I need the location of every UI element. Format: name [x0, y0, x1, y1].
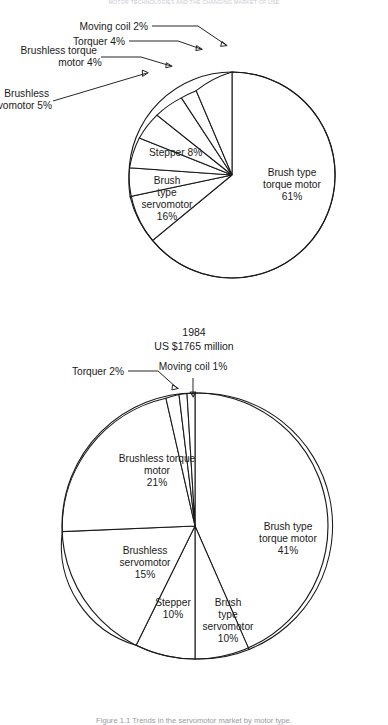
label-torquer: Torquer 2%	[72, 366, 124, 377]
pie-svg-1990: Moving coil 1% Torquer 2% Brushless torq…	[0, 358, 388, 718]
leader-torquer	[129, 41, 202, 51]
label-bls-line2: servomotor	[120, 557, 172, 568]
caption-1984-total: US $1765 million	[0, 340, 388, 354]
running-head: MOTOR TECHNOLOGIES AND THE CHANGING MARK…	[0, 0, 388, 6]
label-bltm-line2: motor	[144, 465, 171, 476]
label-bts-line3: servomotor	[142, 199, 194, 210]
label-brushless-servomotor: Brushless ervomotor 5%	[0, 88, 52, 111]
label-bts-line2: type	[218, 609, 238, 620]
leader-torquer	[128, 371, 178, 390]
label-bts-line3: servomotor	[203, 621, 255, 632]
leader-brushless-torque-motor	[101, 57, 172, 68]
label-brushless-servomotor-line1: Brushless	[4, 88, 49, 99]
label-brushless-torque-motor-line2: motor 4%	[58, 57, 102, 68]
label-brushless-torque-motor: Brushless torque motor 4%	[21, 45, 102, 68]
label-brushless-servomotor-line2: ervomotor 5%	[0, 100, 52, 111]
figure-page: MOTOR TECHNOLOGIES AND THE CHANGING MARK…	[0, 0, 388, 725]
figure-caption: Figure 1.1 Trends in the servomotor mark…	[0, 716, 388, 725]
label-stepper-line1: Stepper	[155, 597, 191, 608]
label-moving-coil-text: Moving coil 1%	[159, 361, 228, 372]
caption-1984: 1984 US $1765 million	[0, 326, 388, 353]
label-bttm-line1: Brush type	[268, 167, 317, 178]
label-bts-line1: Brush	[154, 175, 181, 186]
label-bls-line1: Brushless	[123, 545, 168, 556]
pie-svg-1984: Moving coil 2% Torquer 4% Brushless torq…	[0, 8, 388, 360]
leader-moving-coil	[152, 26, 227, 46]
label-bttm-line2: torque motor	[259, 533, 317, 544]
label-bttm-line2: torque motor	[263, 179, 321, 190]
label-stepper-text: Stepper 8%	[149, 147, 202, 158]
pie-chart-1990: Moving coil 1% Torquer 2% Brushless torq…	[0, 358, 388, 718]
label-bltm-line1: Brushless torque	[119, 453, 196, 464]
pie-chart-1984: Moving coil 2% Torquer 4% Brushless torq…	[0, 8, 388, 360]
label-stepper: Stepper 8%	[149, 147, 202, 158]
leader-moving-coil	[190, 378, 196, 397]
label-bltm-line3: 21%	[147, 477, 167, 488]
label-brushless-torque-motor-line1: Brushless torque	[21, 45, 98, 56]
label-bts-line1: Brush	[215, 597, 242, 608]
label-bttm-line3: 41%	[278, 545, 298, 556]
label-torquer-text: Torquer 2%	[72, 366, 124, 377]
label-bttm-line1: Brush type	[264, 521, 313, 532]
label-bts-line4: 16%	[157, 211, 177, 222]
label-moving-coil: Moving coil 1%	[159, 361, 228, 372]
leader-brushless-servomotor	[53, 70, 148, 101]
caption-1984-year: 1984	[0, 326, 388, 340]
label-moving-coil-text: Moving coil 2%	[79, 21, 148, 32]
label-bttm-line3: 61%	[282, 191, 302, 202]
label-bts-line4: 10%	[218, 633, 238, 644]
label-moving-coil: Moving coil 2%	[79, 21, 148, 32]
label-bls-line3: 15%	[135, 569, 155, 580]
label-stepper-line2: 10%	[163, 609, 183, 620]
label-bts-line2: type	[157, 187, 177, 198]
